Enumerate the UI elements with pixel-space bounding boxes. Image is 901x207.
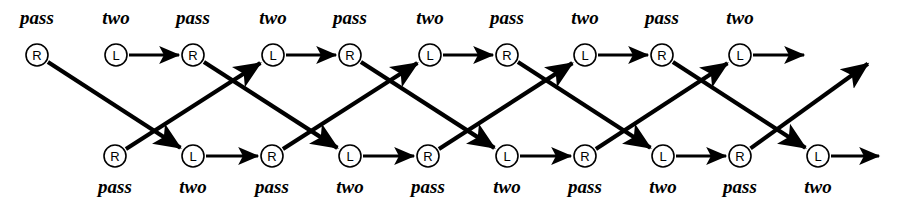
state-label-pass: pass: [96, 176, 132, 197]
state-label-two: two: [102, 7, 129, 28]
state-node-letter: L: [814, 149, 821, 164]
state-label-two: two: [726, 7, 753, 28]
state-node-letter: R: [345, 48, 354, 63]
state-label-pass: pass: [331, 7, 367, 28]
state-node-letter: L: [659, 149, 666, 164]
diagonal-arrow-down: [204, 62, 337, 148]
state-label-pass: pass: [174, 7, 210, 28]
diagonal-arrow-down: [673, 62, 805, 148]
trellis-diagram: RLRLRLRLRLRLRLRLRLRL passtwopasstwopasst…: [0, 0, 901, 207]
diagonal-arrow-down: [361, 62, 494, 148]
state-node-letter: L: [736, 48, 743, 63]
state-label-pass: pass: [488, 7, 524, 28]
state-node-letter: R: [502, 48, 511, 63]
state-node-letter: L: [426, 48, 433, 63]
state-label-pass: pass: [253, 176, 289, 197]
state-node-letter: R: [267, 149, 276, 164]
state-label-two: two: [416, 7, 443, 28]
diagonal-arrow-up: [751, 64, 868, 149]
state-label-pass: pass: [18, 7, 54, 28]
state-node-letter: L: [189, 149, 196, 164]
state-label-pass: pass: [643, 7, 679, 28]
trellis-canvas: RLRLRLRLRLRLRLRLRLRL passtwopasstwopasst…: [0, 0, 901, 207]
diagonal-arrow-up: [283, 63, 417, 149]
state-node-letter: L: [269, 48, 276, 63]
diagonal-arrow-up: [439, 63, 572, 149]
state-label-two: two: [493, 176, 520, 197]
state-label-two: two: [336, 176, 363, 197]
state-label-two: two: [571, 7, 598, 28]
diagonal-arrow-up: [596, 63, 728, 149]
state-label-two: two: [804, 176, 831, 197]
state-node-letter: R: [423, 149, 432, 164]
state-label-pass: pass: [721, 176, 757, 197]
state-label-pass: pass: [566, 176, 602, 197]
diagonal-arrow-down: [48, 62, 180, 148]
state-node-letter: L: [112, 48, 119, 63]
state-node-letter: R: [188, 48, 197, 63]
state-node-letter: R: [110, 149, 119, 164]
state-node-letter: R: [735, 149, 744, 164]
state-label-two: two: [649, 176, 676, 197]
diagonal-edge-group: [48, 62, 868, 149]
state-node-letter: L: [346, 149, 353, 164]
diagonal-arrow-up: [126, 63, 260, 149]
state-node-letter: R: [580, 149, 589, 164]
state-label-two: two: [259, 7, 286, 28]
state-node-letter: L: [503, 149, 510, 164]
state-label-two: two: [179, 176, 206, 197]
state-label-pass: pass: [409, 176, 445, 197]
diagonal-arrow-down: [518, 62, 650, 148]
state-node-letter: R: [32, 48, 41, 63]
state-node-letter: R: [657, 48, 666, 63]
state-node-letter: L: [581, 48, 588, 63]
